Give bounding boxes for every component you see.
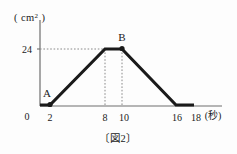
figure-caption: 〔図2〕 (99, 132, 136, 144)
y-axis-unit-open: ( cm (14, 12, 35, 24)
point-label-a: A (43, 87, 51, 99)
x-tick-label-2: 2 (48, 112, 53, 123)
x-tick-label-10: 10 (119, 112, 129, 123)
point-marker-b (119, 46, 124, 51)
area-vs-time-chart: ( cm2 ) 24 0 2 8 10 16 18 (秒) A B 〔図2〕 (0, 0, 237, 154)
x-axis-unit-label: (秒) (205, 109, 222, 122)
y-axis-unit-close: ) (38, 12, 45, 24)
y-tick-label-24: 24 (22, 44, 32, 55)
figure-container: ( cm2 ) 24 0 2 8 10 16 18 (秒) A B 〔図2〕 (0, 0, 237, 154)
point-marker-a (47, 102, 52, 107)
data-polyline (40, 49, 194, 105)
point-label-b: B (118, 31, 125, 43)
y-axis-unit-label: ( cm2 ) (14, 12, 45, 25)
x-tick-label-16: 16 (172, 112, 182, 123)
x-tick-label-18: 18 (191, 112, 201, 123)
x-tick-label-0: 0 (25, 111, 30, 122)
x-tick-label-8: 8 (103, 112, 108, 123)
